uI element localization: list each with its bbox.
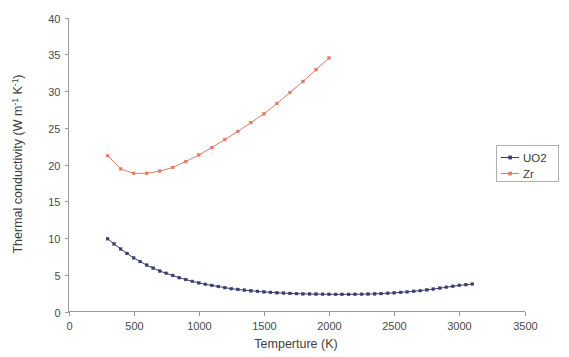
x-tick-label: 3000: [447, 320, 471, 332]
data-point-uo2: [230, 287, 233, 290]
series-zr: [106, 57, 330, 175]
data-point-uo2: [289, 292, 292, 295]
data-point-uo2: [106, 237, 109, 240]
data-point-uo2: [158, 270, 161, 273]
x-tick-label: 3500: [513, 320, 537, 332]
y-axis-title-main: Thermal conductivity (W m: [11, 106, 25, 254]
data-point-zr: [328, 57, 331, 60]
legend-label-zr: Zr: [523, 168, 534, 180]
data-point-uo2: [184, 278, 187, 281]
data-point-zr: [158, 170, 161, 173]
data-point-uo2: [386, 292, 389, 295]
y-axis-ticks: [65, 19, 69, 313]
x-tick-label: 2500: [382, 320, 406, 332]
data-point-uo2: [399, 291, 402, 294]
data-point-zr: [289, 91, 292, 94]
y-axis-title-end: ): [11, 74, 25, 78]
y-tick-label: 10: [48, 233, 60, 245]
data-point-uo2: [204, 283, 207, 286]
x-tick-label: 500: [125, 320, 143, 332]
data-point-uo2: [145, 264, 148, 267]
data-point-uo2: [458, 284, 461, 287]
data-point-uo2: [360, 293, 363, 296]
legend-marker-uo2: [509, 156, 512, 159]
x-tick-label: 1000: [187, 320, 211, 332]
chart-figure: 0510152025303540 05001000150020002500300…: [0, 0, 569, 357]
data-point-uo2: [393, 291, 396, 294]
data-point-uo2: [276, 291, 279, 294]
y-tick-label: 35: [48, 49, 60, 61]
data-point-uo2: [165, 272, 168, 275]
data-point-uo2: [263, 290, 266, 293]
series-line-zr: [108, 58, 329, 173]
x-tick-label: 2000: [317, 320, 341, 332]
data-point-zr: [106, 154, 109, 157]
y-axis-title-mid: K: [11, 86, 25, 98]
data-point-uo2: [328, 293, 331, 296]
data-point-uo2: [341, 293, 344, 296]
data-point-zr: [315, 68, 318, 71]
data-point-uo2: [321, 293, 324, 296]
y-tick-label: 5: [54, 270, 60, 282]
data-point-uo2: [269, 291, 272, 294]
data-point-uo2: [243, 289, 246, 292]
data-point-uo2: [178, 276, 181, 279]
data-point-uo2: [152, 267, 155, 270]
data-series-group: [106, 57, 474, 296]
chart-plot-area: 0510152025303540 05001000150020002500300…: [0, 0, 569, 357]
y-axis-title: Thermal conductivity (W m-1 K-1): [10, 74, 25, 253]
y-axis-tick-labels: 0510152025303540: [48, 13, 60, 319]
data-point-zr: [236, 130, 239, 133]
y-tick-label: 25: [48, 123, 60, 135]
data-point-uo2: [354, 293, 357, 296]
chart-legend: UO2Zr: [497, 146, 559, 182]
data-point-uo2: [308, 293, 311, 296]
data-point-zr: [276, 102, 279, 105]
svg-text:Thermal conductivity (W m-1 K-: Thermal conductivity (W m-1 K-1): [10, 74, 25, 253]
data-point-uo2: [412, 290, 415, 293]
data-point-uo2: [380, 292, 383, 295]
y-tick-label: 15: [48, 196, 60, 208]
data-point-uo2: [419, 289, 422, 292]
data-point-uo2: [210, 284, 213, 287]
data-point-zr: [171, 166, 174, 169]
data-point-uo2: [315, 293, 318, 296]
y-tick-label: 20: [48, 160, 60, 172]
x-axis-ticks: [70, 312, 526, 316]
data-point-zr: [145, 172, 148, 175]
legend-marker-zr: [509, 172, 512, 175]
x-axis-title: Temperture (K): [254, 337, 337, 351]
data-point-uo2: [406, 290, 409, 293]
data-point-zr: [197, 154, 200, 157]
x-axis-tick-labels: 0500100015002000250030003500: [66, 320, 537, 332]
data-point-uo2: [191, 280, 194, 283]
data-point-uo2: [295, 292, 298, 295]
data-point-uo2: [451, 285, 454, 288]
data-point-uo2: [126, 252, 129, 255]
y-tick-label: 30: [48, 86, 60, 98]
data-point-uo2: [256, 290, 259, 293]
data-point-uo2: [438, 287, 441, 290]
y-tick-label: 0: [54, 307, 60, 319]
data-point-uo2: [425, 288, 428, 291]
data-point-uo2: [236, 288, 239, 291]
series-line-uo2: [108, 239, 473, 295]
data-point-zr: [302, 80, 305, 83]
series-uo2: [106, 237, 474, 295]
data-point-uo2: [432, 288, 435, 291]
data-point-zr: [132, 172, 135, 175]
legend-label-uo2: UO2: [523, 152, 547, 164]
x-tick-label: 1500: [252, 320, 276, 332]
data-point-zr: [184, 160, 187, 163]
data-point-uo2: [445, 286, 448, 289]
data-point-uo2: [464, 283, 467, 286]
data-point-uo2: [367, 293, 370, 296]
data-point-uo2: [197, 281, 200, 284]
data-point-uo2: [347, 293, 350, 296]
data-point-uo2: [373, 292, 376, 295]
data-point-zr: [250, 121, 253, 124]
data-point-uo2: [223, 286, 226, 289]
data-point-uo2: [334, 293, 337, 296]
data-point-uo2: [171, 274, 174, 277]
data-point-uo2: [217, 285, 220, 288]
